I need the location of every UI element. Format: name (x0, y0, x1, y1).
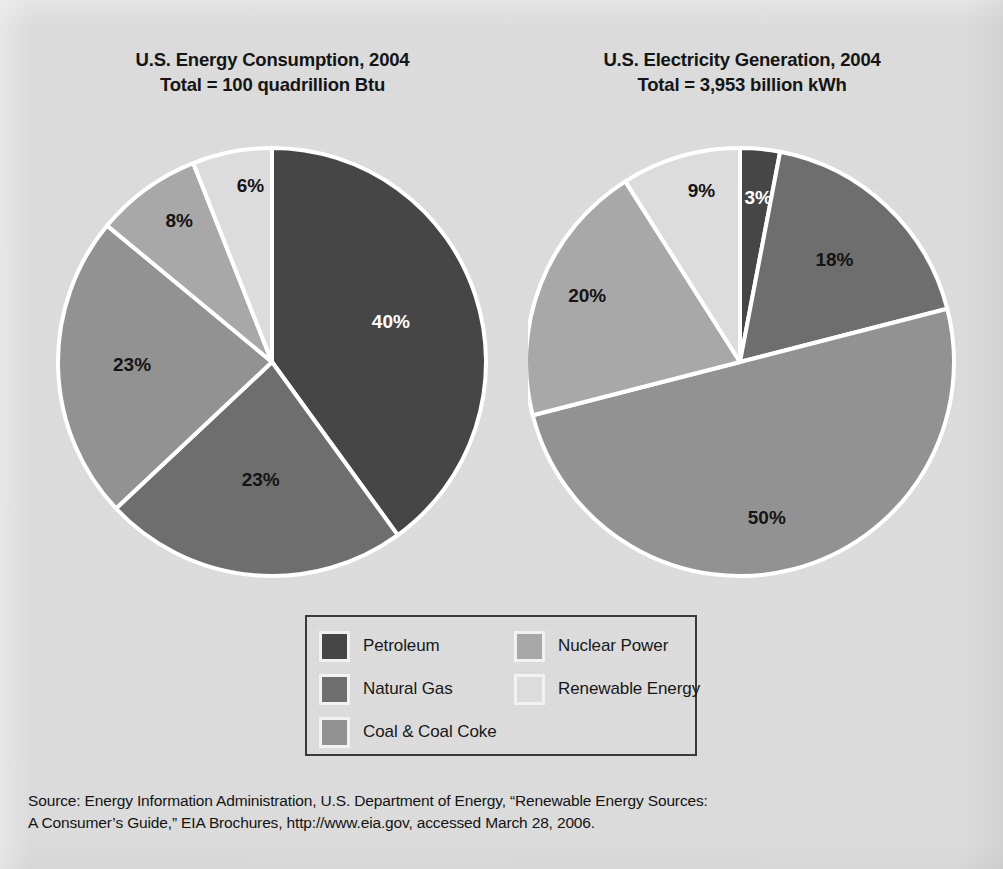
legend-swatch-coal-and-coal-coke (319, 717, 350, 748)
legend-item-renewable-energy: Renewable Energy (514, 670, 700, 708)
legend-label-coal-and-coal-coke: Coal & Coal Coke (363, 722, 497, 742)
legend-swatch-natural-gas (319, 674, 350, 705)
pie-slice-label: 18% (815, 249, 853, 270)
source-note-line-1: Source: Energy Information Administratio… (28, 790, 968, 812)
legend-item-natural-gas: Natural Gas (319, 670, 453, 708)
legend-grid: Petroleum Natural Gas Coal & Coal Coke N… (307, 617, 695, 754)
pie-svg: 3%18%50%20%9% (528, 140, 964, 590)
chart-subtitle-line: Total = 3,953 billion kWh (527, 72, 957, 97)
pie-slice-label: 9% (688, 180, 716, 201)
legend-swatch-renewable-energy (514, 674, 545, 705)
pie-svg: 40%23%23%8%6% (56, 140, 492, 590)
legend-label-petroleum: Petroleum (363, 636, 440, 656)
pie-chart-electricity-generation: 3%18%50%20%9% (528, 140, 964, 590)
chart-title-line: U.S. Electricity Generation, 2004 (603, 49, 880, 70)
chart-title-electricity-generation: U.S. Electricity Generation, 2004 Total … (527, 47, 957, 97)
legend-box: Petroleum Natural Gas Coal & Coal Coke N… (305, 615, 697, 756)
legend-item-petroleum: Petroleum (319, 627, 440, 665)
pie-slice-label: 20% (568, 285, 606, 306)
chart-subtitle-line: Total = 100 quadrillion Btu (60, 72, 485, 97)
legend-swatch-petroleum (319, 631, 350, 662)
legend-label-renewable-energy: Renewable Energy (558, 679, 700, 699)
legend-label-nuclear-power: Nuclear Power (558, 636, 668, 656)
pie-slice-label: 50% (748, 507, 786, 528)
source-note-line-2: A Consumer’s Guide,” EIA Brochures, http… (28, 812, 968, 834)
pie-slice-label: 40% (372, 311, 410, 332)
pie-chart-energy-consumption: 40%23%23%8%6% (56, 140, 492, 590)
legend-item-coal-and-coal-coke: Coal & Coal Coke (319, 713, 497, 751)
pie-slice-label: 8% (166, 210, 194, 231)
legend-swatch-nuclear-power (514, 631, 545, 662)
pie-slice-label: 3% (744, 187, 772, 208)
chart-title-energy-consumption: U.S. Energy Consumption, 2004 Total = 10… (60, 47, 485, 97)
source-note: Source: Energy Information Administratio… (28, 790, 968, 834)
pie-slice-label: 23% (242, 469, 280, 490)
pie-slice-label: 23% (113, 354, 151, 375)
legend-label-natural-gas: Natural Gas (363, 679, 453, 699)
pie-slices (528, 148, 954, 576)
chart-title-line: U.S. Energy Consumption, 2004 (136, 49, 410, 70)
figure-page: U.S. Energy Consumption, 2004 Total = 10… (0, 0, 1003, 869)
pie-slice-label: 6% (237, 175, 265, 196)
legend-item-nuclear-power: Nuclear Power (514, 627, 668, 665)
